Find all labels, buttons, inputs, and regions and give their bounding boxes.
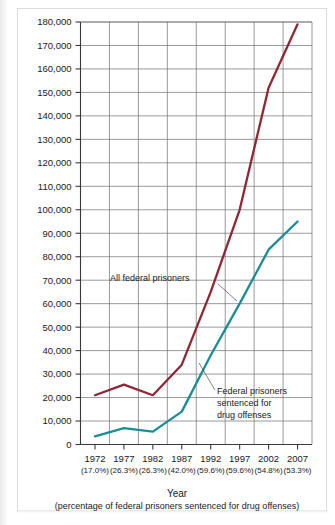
x-tick-label-year: 2007 xyxy=(287,453,308,464)
y-tick-label: 40,000 xyxy=(42,345,71,356)
x-tick-label-year: 1997 xyxy=(229,453,250,464)
y-tick-label: 140,000 xyxy=(37,110,71,121)
x-axis-ticks: 1972(17.0%)1977(26.3%)1982(26.3%)1987(42… xyxy=(81,445,312,475)
x-tick-label-percentage: (17.0%) xyxy=(81,466,109,475)
drug-offenses-label-line1: Federal prisoners xyxy=(217,386,288,396)
drug-offenses-leader-line xyxy=(199,363,215,390)
y-tick-label: 100,000 xyxy=(37,204,71,215)
all-federal-prisoners-label: All federal prisoners xyxy=(110,273,190,283)
x-tick-label-year: 1972 xyxy=(84,453,105,464)
x-tick-label-year: 1982 xyxy=(142,453,163,464)
y-tick-label: 130,000 xyxy=(37,134,71,145)
x-tick-label-year: 1977 xyxy=(113,453,134,464)
x-tick-label-percentage: (53.3%) xyxy=(284,466,312,475)
x-tick-label-year: 1992 xyxy=(200,453,221,464)
y-tick-label: 150,000 xyxy=(37,87,71,98)
x-tick-label-percentage: (26.3%) xyxy=(110,466,138,475)
drug-offenses-label-line2: sentenced for xyxy=(217,398,272,408)
annotation-drug-offenses: Federal prisoners sentenced for drug off… xyxy=(199,363,288,420)
x-tick-label-percentage: (59.6%) xyxy=(226,466,254,475)
y-tick-label: 10,000 xyxy=(42,415,71,426)
y-tick-label: 0 xyxy=(66,439,71,450)
all-federal-prisoners-leader-line xyxy=(218,284,237,301)
y-tick-label: 110,000 xyxy=(38,181,72,192)
x-tick-label-percentage: (42.0%) xyxy=(168,466,196,475)
x-tick-label-percentage: (26.3%) xyxy=(139,466,167,475)
drug-offenses-label-line3: drug offenses xyxy=(217,410,272,420)
y-tick-label: 90,000 xyxy=(42,228,71,239)
y-tick-label: 120,000 xyxy=(37,157,71,168)
chart-figure: 180,000170,000160,000150,000140,000130,0… xyxy=(0,0,335,525)
y-tick-label: 50,000 xyxy=(42,322,71,333)
x-tick-label-percentage: (59.6%) xyxy=(197,466,225,475)
x-tick-label-year: 2002 xyxy=(258,453,279,464)
y-tick-label: 70,000 xyxy=(42,275,71,286)
line-chart: 180,000170,000160,000150,000140,000130,0… xyxy=(0,0,335,525)
x-tick-label-percentage: (54.8%) xyxy=(255,466,283,475)
annotation-all-federal-prisoners: All federal prisoners xyxy=(110,273,237,301)
x-axis-subtitle: (percentage of federal prisoners sentenc… xyxy=(55,501,299,511)
y-axis-ticks: 180,000170,000160,000150,000140,000130,0… xyxy=(37,16,80,450)
y-tick-label: 80,000 xyxy=(42,251,71,262)
y-tick-label: 160,000 xyxy=(37,63,71,74)
y-tick-label: 170,000 xyxy=(37,40,71,51)
x-axis-title: Year xyxy=(167,488,188,499)
chart-svg: 180,000170,000160,000150,000140,000130,0… xyxy=(0,0,335,525)
y-tick-label: 180,000 xyxy=(37,16,71,27)
y-tick-label: 30,000 xyxy=(42,368,71,379)
y-tick-label: 60,000 xyxy=(42,298,71,309)
x-tick-label-year: 1987 xyxy=(171,453,192,464)
y-tick-label: 20,000 xyxy=(42,392,71,403)
